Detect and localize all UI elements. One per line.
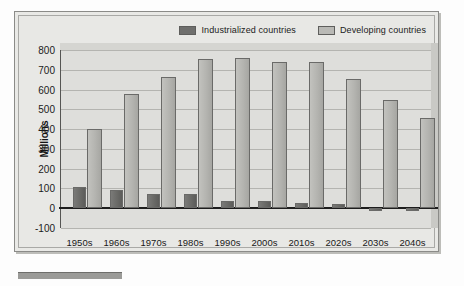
- bar-industrialized: [295, 203, 308, 208]
- legend-label-developing: Developing countries: [340, 25, 426, 35]
- y-axis-tick-label: -100: [35, 223, 55, 234]
- bar-group: 1990s: [209, 50, 246, 228]
- bar-industrialized: [184, 194, 197, 208]
- bar-industrialized: [147, 194, 160, 208]
- y-axis-tick-label: 100: [38, 183, 55, 194]
- bar-industrialized: [110, 190, 123, 208]
- x-axis-tick-label: 1980s: [172, 237, 209, 248]
- plot-area: -1000100200300400500600700800 1950s1960s…: [60, 50, 431, 228]
- legend-label-industrialized: Industrialized countries: [201, 25, 295, 35]
- y-axis-tick-label: 400: [38, 124, 55, 135]
- x-axis-tick-label: 2020s: [320, 237, 357, 248]
- y-axis-tick-label: 0: [49, 203, 55, 214]
- x-axis-tick-label: 1970s: [135, 237, 172, 248]
- page-background: Industrialized countries Developing coun…: [0, 0, 464, 286]
- bar-groups: 1950s1960s1970s1980s1990s2000s2010s2020s…: [61, 50, 431, 228]
- figure-inner-border: Industrialized countries Developing coun…: [18, 15, 435, 248]
- bar-group: 1960s: [98, 50, 135, 228]
- bar-industrialized: [406, 208, 419, 211]
- x-axis-tick-label: 1950s: [61, 237, 98, 248]
- bar-industrialized: [73, 187, 86, 208]
- x-axis-tick-label: 1960s: [98, 237, 135, 248]
- bar-group: 1970s: [135, 50, 172, 228]
- bar-industrialized: [258, 201, 271, 208]
- bar-group: 1950s: [61, 50, 98, 228]
- figure-frame: Industrialized countries Developing coun…: [14, 11, 439, 252]
- bar-group: 2030s: [357, 50, 394, 228]
- bar-industrialized: [221, 201, 234, 209]
- legend-item-industrialized: Industrialized countries: [179, 25, 295, 35]
- y-axis-tick-label: 700: [38, 64, 55, 75]
- x-axis-tick-label: 2040s: [394, 237, 431, 248]
- plot-depth-top: [60, 43, 431, 50]
- y-axis-tick-label: 200: [38, 163, 55, 174]
- bar-industrialized: [332, 204, 345, 208]
- x-axis-tick-label: 1990s: [209, 237, 246, 248]
- legend-swatch-icon-industrialized: [179, 26, 196, 35]
- chart-legend: Industrialized countries Developing coun…: [19, 25, 426, 35]
- bar-group: 2020s: [320, 50, 357, 228]
- y-axis-tick-label: 600: [38, 84, 55, 95]
- y-axis-tick-label: 500: [38, 104, 55, 115]
- bar-industrialized: [369, 208, 382, 211]
- y-axis-tick-label: 800: [38, 45, 55, 56]
- plot-wrapper: Millions -1000100200300400500600700800 1…: [60, 50, 431, 228]
- x-axis-tick-label: 2010s: [283, 237, 320, 248]
- x-axis-tick-label: 2030s: [357, 237, 394, 248]
- legend-swatch-icon-developing: [318, 26, 335, 35]
- x-axis-tick-label: 2000s: [246, 237, 283, 248]
- bar-group: 2000s: [246, 50, 283, 228]
- bar-group: 1980s: [172, 50, 209, 228]
- bar-group: 2010s: [283, 50, 320, 228]
- bar-group: 2040s: [394, 50, 431, 228]
- page-bottom-rule: [18, 272, 122, 279]
- legend-item-developing: Developing countries: [318, 25, 426, 35]
- bar-developing: [420, 118, 435, 209]
- y-axis-tick-label: 300: [38, 143, 55, 154]
- gridline: [61, 228, 431, 229]
